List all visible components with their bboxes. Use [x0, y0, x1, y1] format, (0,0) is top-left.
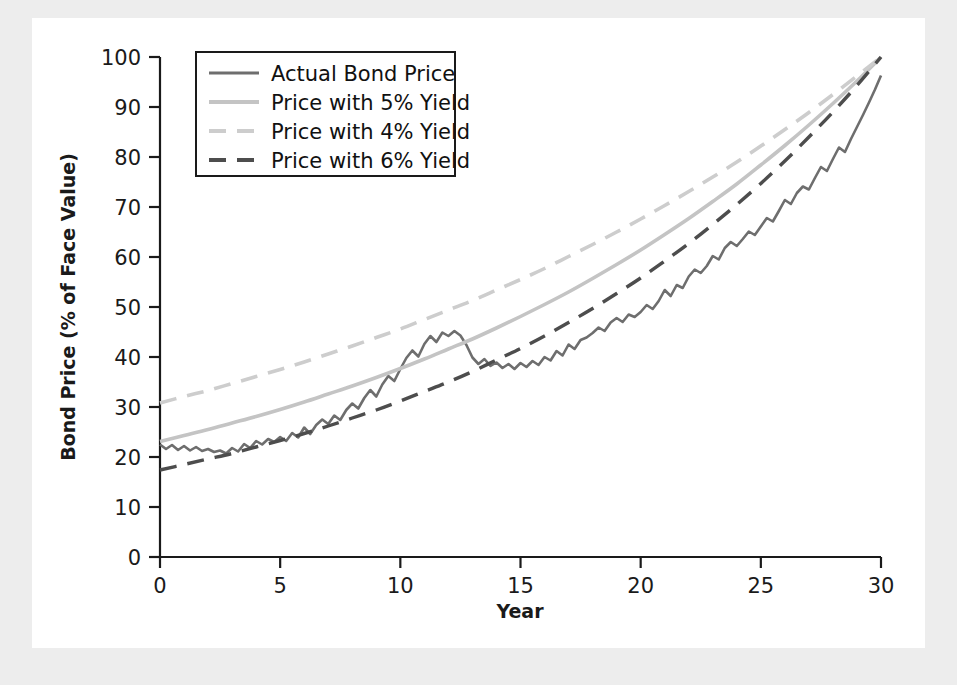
y-tick-label: 80: [114, 146, 141, 170]
y-tick-label: 20: [114, 446, 141, 470]
y-tick-label: 0: [128, 546, 141, 570]
y-tick-label: 50: [114, 296, 141, 320]
legend-label-2[interactable]: Price with 5% Yield: [271, 91, 470, 115]
x-tick-label: 5: [273, 574, 286, 598]
x-tick-label: 15: [507, 574, 534, 598]
legend-label-3[interactable]: Price with 4% Yield: [271, 120, 470, 144]
y-tick-label: 90: [114, 96, 141, 120]
x-tick-label: 20: [627, 574, 654, 598]
y-tick-label: 10: [114, 496, 141, 520]
x-tick-label: 30: [868, 574, 895, 598]
bond-price-chart: 0102030405060708090100051015202530 Actua…: [0, 0, 957, 685]
figure-container: 0102030405060708090100051015202530 Actua…: [0, 0, 957, 685]
chart-legend[interactable]: Actual Bond PricePrice with 5% YieldPric…: [196, 52, 470, 176]
y-tick-label: 70: [114, 196, 141, 220]
y-tick-label: 30: [114, 396, 141, 420]
legend-label-1[interactable]: Actual Bond Price: [271, 62, 455, 86]
legend-label-4[interactable]: Price with 6% Yield: [271, 149, 470, 173]
y-axis-title: Bond Price (% of Face Value): [57, 153, 79, 461]
y-tick-label: 100: [101, 46, 141, 70]
x-tick-label: 25: [747, 574, 774, 598]
x-tick-label: 0: [153, 574, 166, 598]
y-tick-label: 40: [114, 346, 141, 370]
x-axis-title: Year: [495, 600, 544, 622]
x-tick-label: 10: [387, 574, 414, 598]
y-tick-label: 60: [114, 246, 141, 270]
